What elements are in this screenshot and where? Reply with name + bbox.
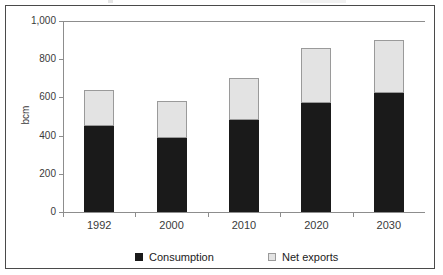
y-tick-label: 600 <box>8 92 56 102</box>
y-tick-label-wrap: 1,000 <box>0 16 56 26</box>
legend-item-net-exports[interactable]: Net exports <box>268 250 338 264</box>
y-tick-label: 400 <box>8 131 56 141</box>
y-tick-mark <box>59 97 64 98</box>
y-tick-label: 1,000 <box>8 16 56 26</box>
x-tick-mark <box>63 212 64 217</box>
y-tick-label-wrap: 0 <box>0 207 56 217</box>
y-tick-label: 0 <box>8 207 56 217</box>
bar-group[interactable] <box>84 21 114 212</box>
y-tick-label: 200 <box>8 169 56 179</box>
bar-group[interactable] <box>301 21 331 212</box>
bar-segment-net-exports[interactable] <box>374 40 404 93</box>
y-tick-mark <box>59 21 64 22</box>
legend-item-consumption[interactable]: Consumption <box>135 250 214 264</box>
x-tick-label: 2030 <box>354 219 424 232</box>
bar-group[interactable] <box>374 21 404 212</box>
bar-segment-net-exports[interactable] <box>157 101 187 137</box>
x-tick-mark <box>135 212 136 217</box>
y-tick-label-wrap: 600 <box>0 92 56 102</box>
bar-segment-consumption[interactable] <box>157 138 187 212</box>
bar-segment-consumption[interactable] <box>229 120 259 212</box>
x-tick-mark <box>280 212 281 217</box>
y-tick-mark <box>59 59 64 60</box>
x-tick-label: 2000 <box>137 219 207 232</box>
y-tick-mark <box>59 136 64 137</box>
chart-legend: Consumption Net exports <box>63 250 425 266</box>
x-tick-label: 1992 <box>64 219 134 232</box>
bar-group[interactable] <box>229 21 259 212</box>
bar-segment-net-exports[interactable] <box>301 48 331 103</box>
legend-label-consumption: Consumption <box>149 250 214 264</box>
bar-segment-net-exports[interactable] <box>84 90 114 126</box>
x-tick-label: 2020 <box>281 219 351 232</box>
light-square-icon <box>268 253 276 261</box>
x-tick-mark <box>353 212 354 217</box>
bar-segment-consumption[interactable] <box>374 93 404 212</box>
chart-figure: bcm 02004006008001,000 19922000201020202… <box>0 0 443 275</box>
bar-segment-net-exports[interactable] <box>229 78 259 120</box>
y-tick-label-wrap: 400 <box>0 131 56 141</box>
y-tick-label-wrap: 200 <box>0 169 56 179</box>
bar-segment-consumption[interactable] <box>84 126 114 212</box>
bar-group[interactable] <box>157 21 187 212</box>
bar-segment-consumption[interactable] <box>301 103 331 212</box>
legend-label-net-exports: Net exports <box>282 250 338 264</box>
x-tick-label: 2010 <box>209 219 279 232</box>
y-tick-label-wrap: 800 <box>0 54 56 64</box>
y-tick-mark <box>59 174 64 175</box>
dark-square-icon <box>135 253 143 261</box>
plot-area: bcm 02004006008001,000 19922000201020202… <box>0 0 443 275</box>
y-axis-line <box>63 21 64 213</box>
x-tick-mark <box>208 212 209 217</box>
y-tick-label: 800 <box>8 54 56 64</box>
x-axis-line <box>63 212 425 213</box>
